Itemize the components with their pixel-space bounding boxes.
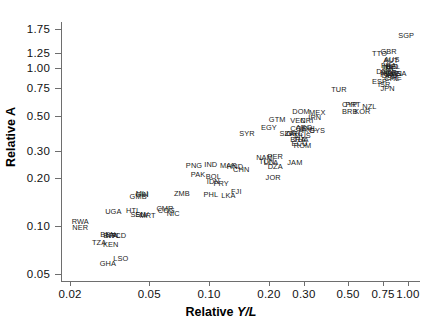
y-tick-label: 1.25 — [2, 47, 50, 59]
x-tick-mark — [348, 281, 349, 286]
x-tick-label: 0.50 — [336, 288, 359, 300]
data-point-label: IND — [204, 161, 217, 168]
y-tick-label: 0.05 — [2, 268, 50, 280]
x-tick-label: 0.75 — [371, 288, 394, 300]
y-tick-mark — [55, 53, 61, 54]
x-tick-label: 0.30 — [292, 288, 315, 300]
y-tick-mark — [55, 151, 61, 152]
y-tick-label: 1.00 — [2, 62, 50, 74]
data-point-label: ZMB — [174, 190, 190, 197]
data-point-label: KEN — [103, 241, 119, 248]
y-tick-mark — [55, 226, 61, 227]
y-tick-mark — [55, 88, 61, 89]
data-point-label: DOM — [292, 108, 310, 115]
x-tick-mark — [149, 281, 150, 286]
y-tick-label: 0.10 — [2, 220, 50, 232]
data-point-label: JAM — [287, 159, 302, 166]
data-point-label: TUR — [331, 86, 347, 93]
x-tick-mark — [408, 281, 409, 286]
data-point-label: GMB — [130, 194, 147, 201]
x-axis-line — [61, 281, 420, 282]
y-tick-mark — [55, 274, 61, 275]
data-point-label: NIC — [167, 210, 180, 217]
data-point-label: KOR — [354, 108, 370, 115]
x-tick-label: 0.02 — [59, 288, 82, 300]
x-tick-label: 0.20 — [257, 288, 280, 300]
data-point-label: MRT — [139, 212, 155, 219]
y-tick-mark — [55, 29, 61, 30]
data-point-label: EGY — [261, 124, 277, 131]
x-tick-mark — [304, 281, 305, 286]
data-point-label: GHA — [100, 260, 116, 267]
y-tick-mark — [55, 178, 61, 179]
y-axis-title: Relative A — [4, 82, 18, 192]
data-point-label: JOR — [266, 175, 281, 182]
data-point-label: CYS — [310, 127, 326, 134]
y-tick-mark — [55, 116, 61, 117]
data-point-label: SYR — [239, 131, 255, 138]
data-point-label: LKA — [221, 192, 235, 199]
data-point-label: ROM — [294, 142, 312, 149]
data-point-label: SGP — [398, 33, 414, 40]
data-point-label: JPN — [380, 85, 394, 92]
x-tick-label: 0.10 — [197, 288, 220, 300]
y-axis-line — [61, 22, 62, 281]
data-point-label: UGA — [105, 209, 121, 216]
x-tick-label: 0.05 — [138, 288, 161, 300]
x-tick-label: 1.00 — [396, 288, 419, 300]
x-tick-mark — [269, 281, 270, 286]
x-tick-mark — [209, 281, 210, 286]
data-point-label: DZA — [268, 164, 283, 171]
data-point-label: NER — [72, 225, 88, 232]
data-point-label: IRN — [308, 115, 321, 122]
x-axis-title: Relative Y/L — [0, 305, 442, 319]
scatter-plot: 0.050.100.200.300.500.751.001.251.75 0.0… — [0, 0, 442, 330]
data-point-label: PAK — [191, 171, 206, 178]
y-tick-label: 1.75 — [2, 23, 50, 35]
data-point-label: PHL — [203, 191, 218, 198]
data-point-label: HND — [227, 164, 243, 171]
x-tick-mark — [383, 281, 384, 286]
y-tick-mark — [55, 68, 61, 69]
x-tick-mark — [70, 281, 71, 286]
data-point-label: PRY — [213, 180, 228, 187]
data-point-label: PNG — [186, 162, 202, 169]
data-point-label: TCD — [111, 233, 127, 240]
